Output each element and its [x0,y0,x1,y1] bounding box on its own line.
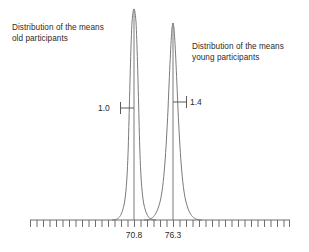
label-young-line2: young participants [192,52,284,63]
axis-tick-label-mean-young: 76.3 [157,230,189,240]
label-old-line2: old participants [12,33,104,44]
label-young-participants: Distribution of the means young particip… [192,41,284,63]
x-axis-ticks [31,220,290,227]
label-old-participants: Distribution of the means old participan… [12,22,104,44]
label-old-line1: Distribution of the means [12,22,104,33]
sd-label-old: 1.0 [98,103,110,113]
sd-label-young: 1.4 [190,97,202,107]
label-young-line1: Distribution of the means [192,41,284,52]
axis-tick-label-mean-old: 70.8 [118,230,150,240]
figure-canvas: Distribution of the means old participan… [0,0,309,252]
